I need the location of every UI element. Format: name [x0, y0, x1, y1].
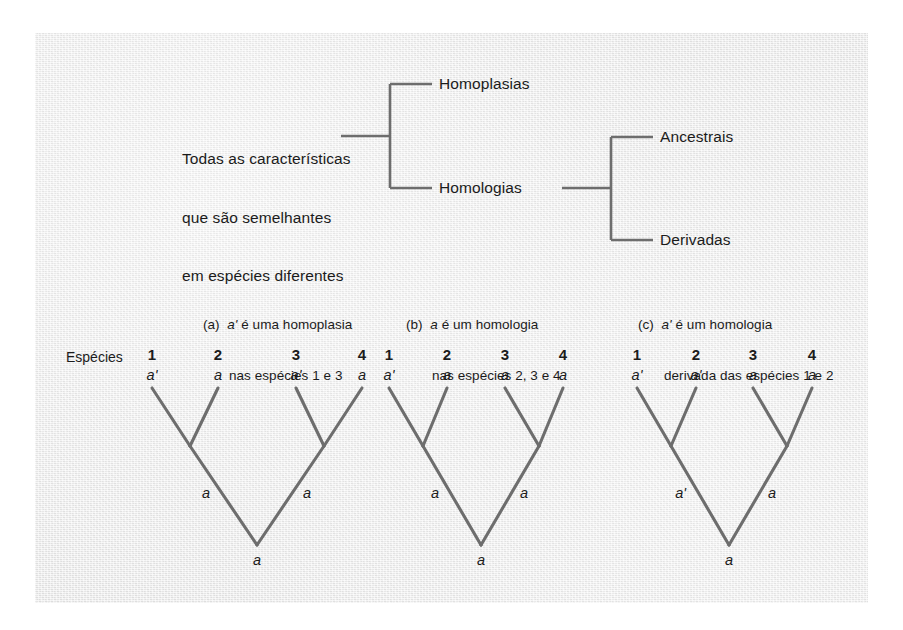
tree-b-tip-number-4: 4: [550, 346, 576, 365]
species-row-label: Espécies: [66, 349, 123, 367]
panel-c-text: é um homologia: [672, 317, 773, 332]
tree-b-tip-number-1: 1: [376, 346, 402, 365]
tree-a-tip-number-4: 4: [349, 346, 375, 365]
panel-b-tag: (b): [406, 317, 423, 332]
tree-c-root-state: a: [716, 551, 742, 569]
tree-b-tip-state-3: a: [492, 366, 518, 384]
panel-c-symbol: a': [662, 317, 672, 332]
tree-b-tip-state-4: a: [550, 366, 576, 384]
panel-caption-b-line1: (b) a é um homologia: [406, 316, 606, 333]
tree-b-internal-state-right: a: [520, 484, 550, 502]
hierarchy-label-homologias: Homologias: [439, 178, 522, 198]
tree-b-tip-number-2: 2: [434, 346, 460, 365]
tree-a-root-state: a: [244, 551, 270, 569]
tree-b-tip-state-1: a': [376, 366, 402, 384]
panel-c-tag: (c): [638, 317, 654, 332]
tree-a-tip-state-4: a: [349, 366, 375, 384]
hierarchy-root-label: Todas as características que são semelha…: [182, 110, 342, 305]
panel-b-text: é um homologia: [438, 317, 539, 332]
panel-caption-c-line1: (c) a' é um homologia: [638, 316, 868, 333]
tree-c-tip-state-1: a': [624, 366, 650, 384]
tree-c-tip-state-2: a': [683, 366, 709, 384]
tree-a-tip-number-1: 1: [139, 346, 165, 365]
tree-c-tip-number-3: 3: [740, 346, 766, 365]
tree-c-internal-state-right: a: [768, 484, 798, 502]
panel-caption-a-line1: (a) a' é uma homoplasia: [203, 316, 403, 333]
tree-c-tip-state-4: a: [799, 366, 825, 384]
tree-b-tip-number-3: 3: [492, 346, 518, 365]
hierarchy-label-homoplasias: Homoplasias: [439, 74, 530, 94]
hierarchy-label-derivadas: Derivadas: [660, 230, 731, 250]
tree-c-internal-state-left: a': [656, 484, 686, 502]
panel-a-symbol: a': [227, 317, 237, 332]
tree-b-root-state: a: [468, 551, 494, 569]
tree-c-tip-state-3: a: [740, 366, 766, 384]
tree-b-internal-state-left: a: [409, 484, 439, 502]
tree-a-tip-number-2: 2: [205, 346, 231, 365]
tree-a-internal-state-right: a: [303, 484, 333, 502]
hierarchy-label-ancestrais: Ancestrais: [660, 127, 733, 147]
tree-c-tip-number-2: 2: [683, 346, 709, 365]
tree-a-tip-state-2: a: [205, 366, 231, 384]
panel-a-tag: (a): [203, 317, 220, 332]
hierarchy-root-line-1: Todas as características: [182, 149, 342, 169]
panel-a-text: é uma homoplasia: [237, 317, 352, 332]
tree-a-tip-state-1: a': [139, 366, 165, 384]
tree-a-internal-state-left: a: [180, 484, 210, 502]
tree-a-tip-number-3: 3: [283, 346, 309, 365]
tree-c-tip-number-1: 1: [624, 346, 650, 365]
hierarchy-root-line-2: que são semelhantes: [182, 208, 342, 228]
tree-b-tip-state-2: a: [434, 366, 460, 384]
panel-b-symbol: a: [430, 317, 438, 332]
tree-c-tip-number-4: 4: [799, 346, 825, 365]
tree-a-tip-state-3: a': [283, 366, 309, 384]
